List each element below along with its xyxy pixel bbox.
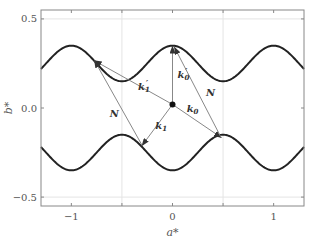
grid-lines	[41, 10, 304, 206]
vector-label-N-right: N	[205, 87, 216, 98]
vector-label-k0-prime: k0′	[178, 65, 190, 82]
x-axis-label: a*	[166, 226, 179, 239]
y-tick-label: −0.5	[13, 192, 37, 203]
vector-label-N-left: N	[109, 108, 120, 119]
vector-label-k0: k0	[187, 103, 199, 116]
ticks: −101−0.50.00.5	[13, 10, 304, 222]
curve-lower-boundary	[41, 135, 304, 171]
chart: k0′k0Nk1′k1N −101−0.50.00.5 a* b*	[0, 0, 311, 244]
vector-label-k1: k1	[155, 120, 167, 133]
vector-label-k1-prime: k1′	[138, 77, 150, 94]
plot-frame	[41, 10, 304, 206]
x-tick-label: 0	[169, 211, 175, 222]
y-axis-label: b*	[2, 101, 15, 114]
vector-N-left	[95, 61, 143, 146]
vector-k1-prime	[95, 61, 173, 105]
y-tick-label: 0.0	[21, 103, 37, 114]
origin-point	[170, 101, 176, 107]
x-tick-label: −1	[64, 211, 79, 222]
y-tick-label: 0.5	[21, 13, 37, 24]
x-tick-label: 1	[270, 211, 276, 222]
